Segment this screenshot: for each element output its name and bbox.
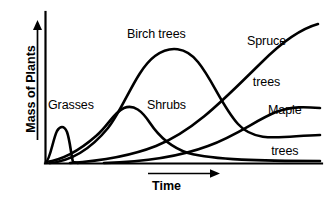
y-axis-label-wrap: Mass of Plants — [21, 39, 37, 139]
curve-label-birch: Birch trees — [127, 28, 186, 42]
curve-label-spruce-line1: Spruce — [247, 35, 286, 49]
curve-label-shrubs: Shrubs — [147, 99, 186, 113]
x-axis-label: Time — [152, 179, 181, 193]
right-arrow-icon — [148, 169, 220, 178]
curve-label-maple-line2: trees — [268, 145, 302, 159]
succession-chart-figure: Mass of Plants Time Grasses Birch trees … — [0, 0, 326, 200]
curve-label-maple: Maple trees — [268, 77, 302, 185]
curve-label-maple-line1: Maple — [268, 104, 302, 118]
curve-label-grasses: Grasses — [48, 99, 94, 113]
y-axis-label: Mass of Plants — [24, 45, 38, 133]
